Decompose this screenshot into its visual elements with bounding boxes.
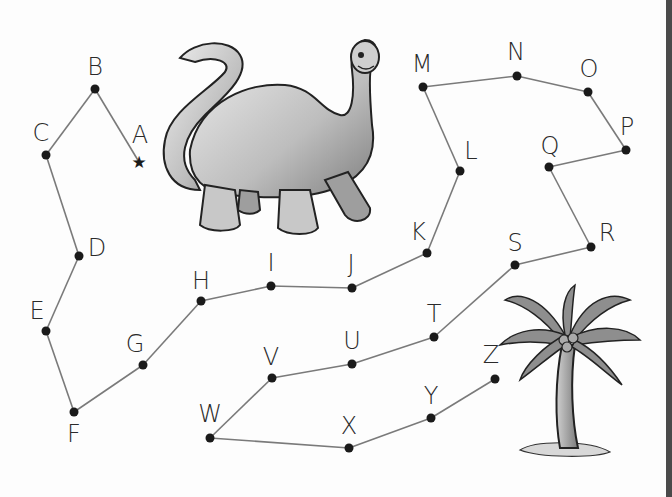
label-s: S [507, 229, 522, 257]
line-s-t [434, 265, 515, 337]
dot-b [91, 85, 100, 94]
dot-z [491, 375, 500, 384]
dot-l [456, 167, 465, 176]
line-b-c [46, 89, 95, 155]
label-e: E [29, 297, 44, 325]
line-l-m [423, 87, 460, 171]
dot-w [206, 434, 215, 443]
dot-x [345, 444, 354, 453]
label-p: P [620, 113, 634, 141]
label-z: Z [483, 341, 499, 369]
line-k-l [427, 171, 460, 253]
dot-s [511, 261, 520, 270]
label-o: O [580, 55, 599, 83]
line-g-h [143, 301, 201, 365]
dot-i [267, 282, 276, 291]
label-c: C [33, 119, 50, 147]
label-y: Y [424, 382, 439, 410]
line-x-y [349, 418, 431, 448]
line-i-j [271, 286, 352, 288]
dot-k [423, 249, 432, 258]
palm-tree-illustration [500, 285, 640, 456]
dot-p [622, 146, 631, 155]
label-f: F [67, 420, 81, 448]
label-g: G [126, 330, 145, 358]
label-m: M [412, 50, 433, 78]
dinosaur-illustration [164, 40, 379, 234]
dot-m [419, 83, 428, 92]
dot-j [348, 284, 357, 293]
label-d: D [88, 234, 106, 262]
line-w-x [210, 438, 349, 448]
dot-t [430, 333, 439, 342]
dot-n [513, 72, 522, 81]
dot-o [584, 88, 593, 97]
line-t-u [352, 337, 434, 364]
dot-u [348, 360, 357, 369]
line-p-q [549, 150, 626, 167]
line-c-d [46, 155, 79, 256]
dot-d [75, 252, 84, 261]
label-v: V [263, 343, 279, 371]
label-i: I [267, 249, 274, 277]
label-b: B [87, 53, 103, 81]
label-t: T [427, 300, 442, 328]
label-l: L [464, 137, 477, 165]
label-h: H [192, 267, 210, 295]
dot-y [427, 414, 436, 423]
dot-f [70, 408, 79, 417]
label-r: R [599, 219, 616, 247]
line-n-o [517, 76, 588, 92]
dot-h [197, 297, 206, 306]
label-a: A [132, 121, 148, 149]
line-u-v [272, 364, 352, 378]
label-x: X [341, 412, 357, 440]
dot-q [545, 163, 554, 172]
dot-r [587, 243, 596, 252]
line-j-k [352, 253, 427, 288]
page-edge-strip [666, 0, 672, 497]
line-m-n [423, 76, 517, 87]
dot-e [42, 327, 51, 336]
dot-g [139, 361, 148, 370]
label-q: Q [541, 132, 560, 160]
dot-c [42, 151, 51, 160]
star-icon: ★ [131, 152, 146, 172]
line-y-z [431, 379, 495, 418]
label-n: N [507, 38, 525, 66]
label-k: K [410, 218, 426, 246]
label-u: U [343, 327, 361, 355]
line-r-s [515, 247, 591, 265]
label-w: W [198, 400, 222, 428]
dot-v [268, 374, 277, 383]
label-j: J [347, 250, 354, 278]
line-d-e [46, 256, 79, 331]
line-e-f [46, 331, 74, 412]
line-q-r [549, 167, 591, 247]
letter-labels-layer: ABCDEFGHIJKLMNOPQRSTUVWXYZ [29, 38, 634, 448]
line-f-g [74, 365, 143, 412]
connect-the-dots-worksheet: ★ ABCDEFGHIJKLMNOPQRSTUVWXYZ [0, 0, 672, 497]
line-h-i [201, 286, 271, 301]
